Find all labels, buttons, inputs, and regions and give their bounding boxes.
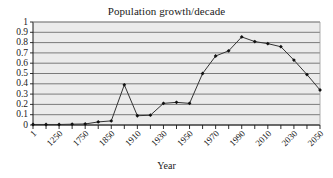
x-axis-tick-label: 1950 [175, 128, 195, 148]
x-axis-tick-label: 1970 [201, 128, 221, 148]
x-axis-tick-label: 2050 [306, 128, 326, 148]
y-axis-tick-label: 0.8 [16, 37, 28, 47]
x-axis-label: Year [0, 160, 333, 171]
y-axis-tick-label: 1 [23, 17, 28, 27]
x-axis-tick-label: 1990 [227, 128, 247, 148]
population-growth-chart: Population growth/decade 00.10.20.30.40.… [0, 0, 333, 178]
y-axis-tick-label: 0 [23, 120, 28, 130]
x-axis-tick-label: 1 [28, 128, 38, 138]
x-axis-tick-label: 2010 [253, 128, 273, 148]
x-axis-tick-label: 1750 [71, 128, 91, 148]
y-axis-tick-label: 0.6 [16, 58, 28, 68]
x-axis-tick-label: 2030 [280, 128, 300, 148]
x-axis-tick-label: 1850 [97, 128, 117, 148]
y-axis-tick-label: 0.5 [16, 68, 28, 78]
x-axis-tick-label: 1930 [149, 128, 169, 148]
y-axis-tick-label: 0.4 [16, 78, 28, 88]
y-axis-tick-label: 0.7 [16, 48, 28, 58]
chart-plot-area: 00.10.20.30.40.50.60.70.80.9111250175018… [0, 0, 333, 178]
y-axis-tick-label: 0.2 [16, 99, 28, 109]
x-axis-tick-label: 1250 [45, 128, 65, 148]
x-axis-tick-label: 1910 [123, 128, 143, 148]
y-axis-tick-label: 0.3 [16, 89, 28, 99]
y-axis-tick-label: 0.1 [16, 109, 28, 119]
y-axis-tick-label: 0.9 [16, 27, 28, 37]
